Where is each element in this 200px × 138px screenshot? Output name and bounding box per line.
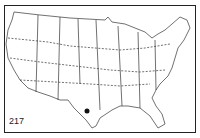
figure-number: 217 — [9, 116, 24, 126]
us-map — [0, 0, 200, 138]
location-marker — [85, 109, 90, 114]
